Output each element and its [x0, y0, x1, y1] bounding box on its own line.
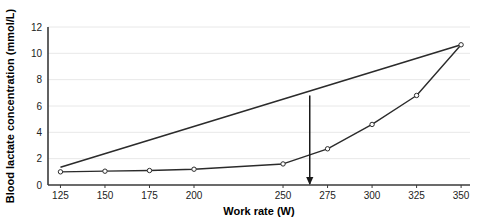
x-tick-label: 350 — [453, 190, 470, 201]
x-tick-label: 150 — [97, 190, 114, 201]
x-axis-title: Work rate (W) — [223, 205, 295, 217]
y-axis-title: Blood lactate concentration (mmol/L) — [4, 8, 16, 203]
data-point-marker — [281, 162, 285, 166]
data-point-marker — [147, 168, 151, 172]
y-tick-label: 4 — [36, 127, 42, 138]
data-point-marker — [192, 167, 196, 171]
x-tick-label: 325 — [408, 190, 425, 201]
x-tick-label: 275 — [319, 190, 336, 201]
data-point-marker — [414, 93, 418, 97]
y-tick-label: 8 — [36, 74, 42, 85]
data-point-marker — [58, 170, 62, 174]
chart-figure: 024681012 125150175200250275300325350 Wo… — [0, 0, 487, 222]
data-point-marker — [325, 147, 329, 151]
x-tick-label: 175 — [141, 190, 158, 201]
x-tick-label: 250 — [275, 190, 292, 201]
x-tick-label: 200 — [186, 190, 203, 201]
data-point-marker — [103, 169, 107, 173]
data-point-marker — [370, 122, 374, 126]
y-tick-label: 2 — [36, 153, 42, 164]
y-tick-label: 12 — [31, 22, 43, 33]
y-tick-label: 6 — [36, 101, 42, 112]
x-tick-label: 300 — [364, 190, 381, 201]
y-tick-label: 0 — [36, 180, 42, 191]
y-tick-label: 10 — [31, 48, 43, 59]
blood-lactate-chart: 024681012 125150175200250275300325350 Wo… — [0, 0, 487, 222]
data-point-marker — [459, 43, 463, 47]
x-tick-label: 125 — [52, 190, 69, 201]
